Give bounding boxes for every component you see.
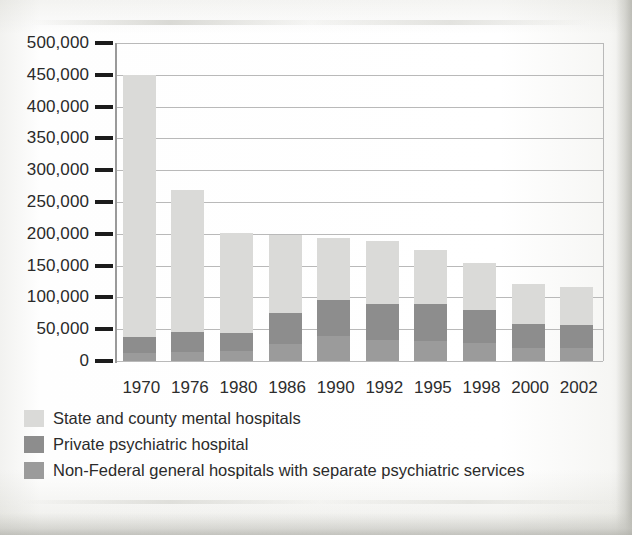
bar-1990 bbox=[317, 43, 350, 361]
segment-non-federal-general-1980 bbox=[220, 351, 253, 361]
x-axis-label-1992: 1992 bbox=[360, 378, 409, 398]
legend-item: State and county mental hospitals bbox=[24, 406, 614, 430]
segment-state-county-1986 bbox=[269, 235, 302, 313]
segment-non-federal-general-1990 bbox=[317, 336, 350, 361]
plot-frame-right bbox=[603, 43, 604, 361]
segment-non-federal-general-2000 bbox=[512, 348, 545, 361]
legend-swatch-icon bbox=[24, 436, 44, 453]
segment-state-county-1980 bbox=[220, 233, 253, 333]
y-axis-tick-label: 50,000 bbox=[36, 319, 89, 339]
segment-non-federal-general-1995 bbox=[414, 341, 447, 361]
y-axis-tick-mark bbox=[95, 105, 113, 109]
bar-2000 bbox=[512, 43, 545, 361]
x-axis-label-1998: 1998 bbox=[457, 378, 506, 398]
y-axis-tick-mark bbox=[95, 295, 113, 299]
y-axis-tick-mark bbox=[95, 200, 113, 204]
segment-state-county-1992 bbox=[366, 241, 399, 303]
chart-legend: State and county mental hospitalsPrivate… bbox=[24, 406, 614, 484]
legend-swatch-icon bbox=[24, 410, 44, 427]
segment-non-federal-general-1998 bbox=[463, 343, 496, 361]
gridline bbox=[117, 361, 603, 362]
x-axis-label-1976: 1976 bbox=[166, 378, 215, 398]
segment-non-federal-general-2002 bbox=[560, 348, 593, 361]
segment-private-psychiatric-1995 bbox=[414, 304, 447, 341]
legend-swatch-icon bbox=[24, 462, 44, 479]
y-axis-tick-label: 0 bbox=[79, 351, 89, 371]
y-axis-tick-mark bbox=[95, 168, 113, 172]
segment-private-psychiatric-2002 bbox=[560, 325, 593, 348]
segment-private-psychiatric-1992 bbox=[366, 304, 399, 340]
bar-1992 bbox=[366, 43, 399, 361]
scanned-chart-page: 500,000450,000400,000350,000300,000250,0… bbox=[0, 0, 632, 535]
segment-private-psychiatric-1970 bbox=[123, 337, 156, 353]
legend-item: Private psychiatric hospital bbox=[24, 432, 614, 456]
segment-state-county-1976 bbox=[171, 190, 204, 332]
y-axis-tick-mark bbox=[95, 327, 113, 331]
y-axis-tick-mark bbox=[95, 41, 113, 45]
segment-non-federal-general-1976 bbox=[171, 352, 204, 361]
segment-non-federal-general-1992 bbox=[366, 340, 399, 361]
x-axis-label-2002: 2002 bbox=[554, 378, 603, 398]
bar-1970 bbox=[123, 43, 156, 361]
y-axis-tick-mark bbox=[95, 136, 113, 140]
y-axis-tick-label: 100,000 bbox=[27, 287, 89, 307]
legend-item: Non-Federal general hospitals with separ… bbox=[24, 458, 614, 482]
bar-1976 bbox=[171, 43, 204, 361]
y-axis-tick-mark bbox=[95, 232, 113, 236]
y-axis-tick-label: 350,000 bbox=[27, 128, 89, 148]
y-axis-tick-label: 250,000 bbox=[27, 192, 89, 212]
bar-1986 bbox=[269, 43, 302, 361]
segment-non-federal-general-1970 bbox=[123, 353, 156, 361]
segment-private-psychiatric-1980 bbox=[220, 333, 253, 351]
y-axis-tick-label: 200,000 bbox=[27, 224, 89, 244]
y-axis-tick-label: 450,000 bbox=[27, 65, 89, 85]
x-axis-label-2000: 2000 bbox=[506, 378, 555, 398]
bar-1980 bbox=[220, 43, 253, 361]
legend-item-label: State and county mental hospitals bbox=[53, 409, 301, 428]
x-axis-label-1986: 1986 bbox=[263, 378, 312, 398]
y-axis-tick-mark bbox=[95, 73, 113, 77]
segment-state-county-1995 bbox=[414, 250, 447, 304]
x-axis-label-1995: 1995 bbox=[409, 378, 458, 398]
legend-item-label: Non-Federal general hospitals with separ… bbox=[53, 461, 524, 480]
bar-1995 bbox=[414, 43, 447, 361]
segment-state-county-2000 bbox=[512, 284, 545, 324]
y-axis-tick-mark bbox=[95, 264, 113, 268]
y-axis-tick-label: 300,000 bbox=[27, 160, 89, 180]
bar-2002 bbox=[560, 43, 593, 361]
segment-private-psychiatric-2000 bbox=[512, 324, 545, 348]
x-axis-label-1970: 1970 bbox=[117, 378, 166, 398]
y-axis-tick-label: 500,000 bbox=[27, 33, 89, 53]
legend-item-label: Private psychiatric hospital bbox=[53, 435, 248, 454]
bar-1998 bbox=[463, 43, 496, 361]
y-axis-line bbox=[115, 43, 117, 363]
y-axis-tick-label: 400,000 bbox=[27, 97, 89, 117]
segment-state-county-1998 bbox=[463, 263, 496, 310]
segment-private-psychiatric-1990 bbox=[317, 300, 350, 336]
segment-private-psychiatric-1998 bbox=[463, 310, 496, 343]
segment-non-federal-general-1986 bbox=[269, 344, 302, 361]
segment-private-psychiatric-1986 bbox=[269, 313, 302, 345]
segment-private-psychiatric-1976 bbox=[171, 332, 204, 352]
segment-state-county-2002 bbox=[560, 287, 593, 325]
segment-state-county-1970 bbox=[123, 75, 156, 338]
x-axis-label-1980: 1980 bbox=[214, 378, 263, 398]
x-axis-label-1990: 1990 bbox=[311, 378, 360, 398]
y-axis-tick-mark bbox=[95, 359, 113, 363]
y-axis-tick-label: 150,000 bbox=[27, 256, 89, 276]
segment-state-county-1990 bbox=[317, 238, 350, 300]
